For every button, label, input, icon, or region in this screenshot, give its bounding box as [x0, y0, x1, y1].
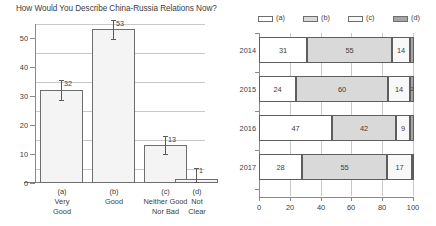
table-row[interactable]: 24 60 14 2 [259, 76, 414, 102]
segment-c[interactable]: 9 [396, 115, 410, 141]
x-tick-label: 40 [311, 203, 331, 212]
x-tick-mark [321, 197, 322, 201]
x-tick-mark [413, 197, 414, 201]
bar-b[interactable] [92, 29, 135, 183]
error-bar-b [113, 20, 114, 39]
right-y-tick-mark [255, 150, 259, 151]
x-tick-mark [351, 197, 352, 201]
error-bar-d [196, 168, 197, 182]
legend-swatch-a-icon [258, 16, 273, 22]
category-label-b-code: (b) [94, 187, 134, 198]
right-x-axis-line [259, 197, 414, 198]
segment-d[interactable] [412, 154, 414, 180]
category-label-a-line1: Very [42, 197, 82, 208]
right-y-tick-mark [255, 72, 259, 73]
table-row[interactable]: 47 42 9 [259, 115, 414, 141]
x-tick-label: 0 [249, 203, 269, 212]
category-label-a-code: (a) [42, 187, 82, 198]
year-label-2014: 2014 [230, 46, 256, 55]
segment-b[interactable]: 55 [302, 154, 387, 180]
right-y-tick-mark [255, 33, 259, 34]
segment-d[interactable]: 2 [410, 76, 414, 102]
bar-a[interactable] [40, 90, 83, 183]
legend-swatch-c-icon [348, 16, 363, 22]
x-tick-mark [382, 197, 383, 201]
category-label-d-line1: Not [177, 197, 217, 208]
y-tick-mark [30, 67, 35, 68]
y-tick-label: 30 [6, 92, 28, 101]
segment-a[interactable]: 24 [259, 76, 296, 102]
y-tick-mark [30, 154, 35, 155]
error-cap-c [163, 154, 168, 155]
legend-label-a: (a) [276, 13, 285, 22]
legend-label-b: (b) [321, 13, 330, 22]
legend: (a) (b) (c) (d) [258, 14, 434, 26]
segment-a[interactable]: 31 [259, 37, 307, 63]
y-tick-label: 20 [6, 121, 28, 130]
legend-swatch-b-icon [303, 16, 318, 22]
page-title: How Would You Describe China-Russia Rela… [16, 4, 217, 13]
x-tick-label: 100 [403, 203, 423, 212]
error-cap-a [59, 100, 64, 101]
legend-swatch-d-icon [393, 16, 408, 22]
table-row[interactable]: 31 55 14 [259, 37, 414, 63]
bar-value-c: 13 [168, 135, 176, 144]
category-label-b-line1: Good [94, 197, 134, 208]
error-cap-b [111, 39, 116, 40]
segment-b[interactable]: 60 [296, 76, 388, 102]
bar-value-a: 32 [64, 79, 72, 88]
x-tick-mark [259, 197, 260, 201]
x-tick-label: 20 [280, 203, 300, 212]
segment-a[interactable]: 47 [259, 115, 332, 141]
category-label-d-line2: Clear [177, 207, 217, 218]
right-y-tick-mark [255, 111, 259, 112]
category-label-d-code: (d) [177, 187, 217, 198]
segment-c[interactable]: 14 [388, 76, 410, 102]
left-chart-panel: How Would You Describe China-Russia Rela… [0, 0, 222, 226]
segment-d[interactable] [410, 37, 414, 63]
x-tick-label: 80 [372, 203, 392, 212]
legend-label-d: (d) [411, 13, 420, 22]
bar-value-b: 53 [116, 19, 124, 28]
segment-b[interactable]: 55 [307, 37, 392, 63]
segment-c[interactable]: 14 [392, 37, 410, 63]
y-tick-mark [30, 183, 35, 184]
segment-a[interactable]: 28 [259, 154, 302, 180]
y-tick-label: 0 [6, 179, 28, 188]
year-label-2016: 2016 [230, 124, 256, 133]
error-bar-c [165, 136, 166, 154]
bar-value-d: 1 [199, 166, 203, 175]
y-tick-mark [30, 125, 35, 126]
segment-b[interactable]: 42 [332, 115, 396, 141]
year-label-2015: 2015 [230, 85, 256, 94]
table-row[interactable]: 28 55 17 [259, 154, 414, 180]
y-axis-line [35, 24, 36, 183]
x-tick-mark [290, 197, 291, 201]
y-tick-label: 40 [6, 63, 28, 72]
y-tick-mark [30, 96, 35, 97]
legend-label-c: (c) [366, 13, 374, 22]
right-y-tick-mark [255, 189, 259, 190]
right-chart-panel: (a) (b) (c) (d) 0 20 40 60 80 100 2014 [222, 0, 436, 226]
year-label-2017: 2017 [230, 163, 256, 172]
x-tick-label: 60 [341, 203, 361, 212]
y-tick-label: 50 [6, 34, 28, 43]
segment-c[interactable]: 17 [387, 154, 412, 180]
y-tick-mark [30, 38, 35, 39]
category-label-a-line2: Good [42, 207, 82, 218]
segment-d[interactable] [410, 115, 414, 141]
y-tick-label: 10 [6, 150, 28, 159]
error-bar-a [61, 80, 62, 100]
error-cap-d [194, 182, 199, 183]
